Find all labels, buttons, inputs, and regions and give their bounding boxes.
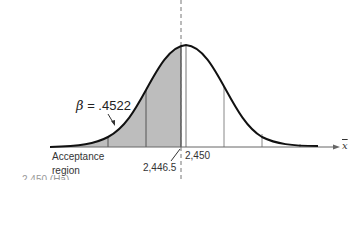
beta-symbol: β <box>76 98 84 113</box>
beta-arrow-icon <box>111 120 115 126</box>
axis-variable-label: x <box>342 140 348 151</box>
acceptance-region-label: Acceptance region <box>52 151 104 176</box>
clipped-footer-text: 2,450 (Ha) <box>22 174 69 180</box>
critical-pointer <box>171 149 180 161</box>
x-axis-arrow-icon <box>333 145 340 150</box>
mean-value-label: 2,450 <box>185 150 210 161</box>
critical-value-label: 2,446.5 <box>143 162 176 173</box>
beta-value: = .4522 <box>87 98 131 113</box>
beta-label: β = .4522 <box>76 100 131 111</box>
normal-curve <box>50 45 318 147</box>
acceptance-label-line1: Acceptance <box>52 151 104 162</box>
